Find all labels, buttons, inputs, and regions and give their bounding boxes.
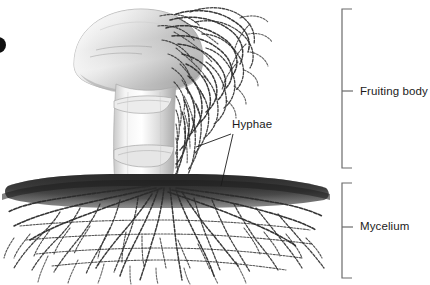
stalk [114, 84, 176, 186]
label-hyphae: Hyphae [232, 118, 272, 130]
label-mycelium: Mycelium [360, 220, 409, 232]
annulus [114, 96, 172, 114]
mycelium-bracket [342, 183, 353, 278]
dot-marker-icon [0, 37, 6, 53]
diagram-artwork [0, 0, 430, 285]
fruiting-body-bracket [342, 9, 353, 168]
fungus-diagram: Fruiting body Mycelium Hyphae [0, 0, 430, 285]
label-fruiting-body: Fruiting body [360, 85, 428, 97]
